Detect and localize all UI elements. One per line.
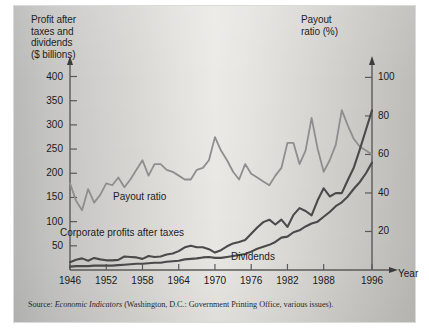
x-tick-label: 1988	[307, 276, 341, 286]
x-axis-arrow	[389, 267, 398, 273]
source-note: Source: Economic Indicators (Washington,…	[28, 300, 408, 310]
left-tick-label: 150	[35, 192, 63, 202]
right-tick-label: 100	[378, 72, 406, 82]
left-tick-label: 400	[35, 72, 63, 82]
right-tick-label: 60	[378, 149, 406, 159]
dividends-label: Dividends	[231, 252, 275, 262]
x-tick-label: 1976	[234, 276, 268, 286]
source-rest: (Washington, D.C.: Government Printing O…	[122, 300, 333, 309]
x-tick-label: 1952	[89, 276, 123, 286]
left-tick-label: 50	[35, 241, 63, 251]
series-line-corporate-profits-after-taxes	[70, 110, 372, 262]
left-tick-label: 100	[35, 217, 63, 227]
source-prefix: Source:	[28, 300, 55, 309]
left-tick-label: 200	[35, 168, 63, 178]
ticks-group	[70, 77, 372, 270]
x-tick-label: 1946	[53, 276, 87, 286]
right-tick-label: 20	[378, 226, 406, 236]
x-tick-label: 1996	[355, 276, 389, 286]
left-tick-label: 300	[35, 120, 63, 130]
axes-group	[67, 56, 398, 273]
figure-page: Profit after taxes and dividends ($ bill…	[0, 0, 429, 336]
left-axis-arrow	[67, 56, 73, 65]
right-tick-label: 80	[378, 111, 406, 121]
right-tick-label: 40	[378, 188, 406, 198]
x-tick-label: 1982	[270, 276, 304, 286]
source-publication: Economic Indicators	[55, 300, 123, 309]
x-axis-name-label: Year	[398, 268, 418, 279]
x-tick-label: 1958	[125, 276, 159, 286]
left-tick-label: 250	[35, 144, 63, 154]
payout-ratio-label: Payout ratio	[113, 192, 166, 202]
left-tick-label: 350	[35, 96, 63, 106]
corporate-profits-label: Corporate profits after taxes	[60, 228, 184, 238]
x-tick-label: 1970	[198, 276, 232, 286]
x-tick-label: 1964	[162, 276, 196, 286]
right-axis-arrow	[369, 56, 375, 65]
series-group	[70, 110, 372, 266]
